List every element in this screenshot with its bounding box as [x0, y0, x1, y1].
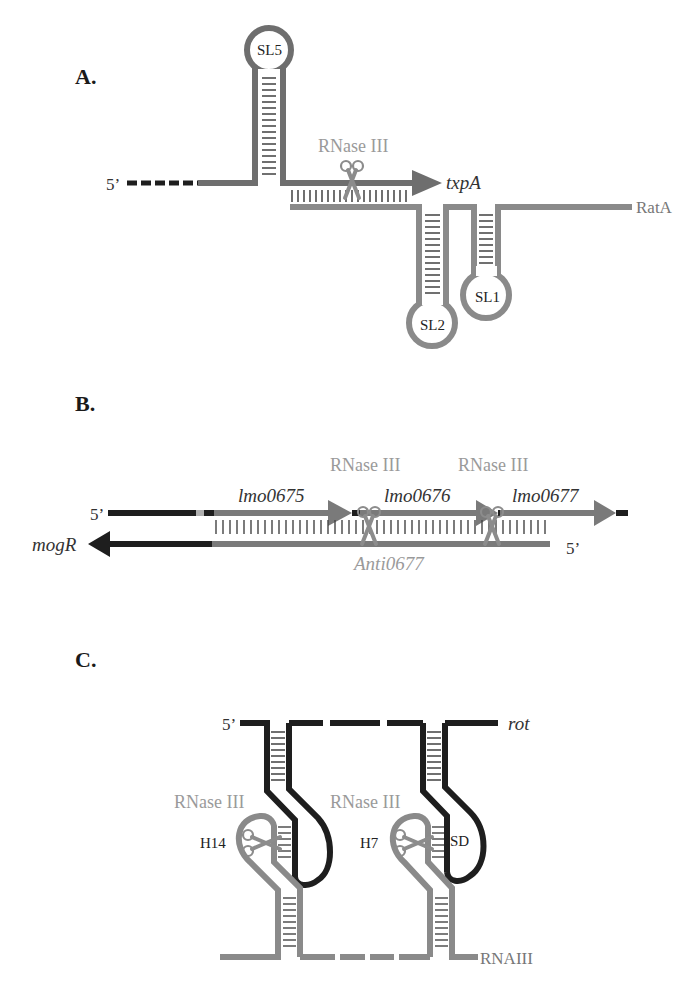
panel-b: B. 5’ lmo0675 lmo0676 lmo0677	[32, 391, 628, 574]
panel-b-rnase-label-2: RNase III	[458, 455, 528, 475]
sl1-label: SL1	[475, 289, 500, 305]
txpA-strand-left	[198, 72, 255, 183]
mogR-label: mogR	[32, 534, 77, 555]
rna-processing-diagram: A. 5’ SL5 txpA	[0, 0, 696, 982]
lmo0677-arrowhead-icon	[594, 500, 616, 526]
sd-label: SD	[450, 833, 469, 849]
sl5-label: SL5	[257, 42, 282, 58]
panel-a: A. 5’ SL5 txpA	[75, 28, 673, 346]
panel-b-label: B.	[75, 391, 95, 416]
rnaiii-label: RNAIII	[480, 949, 533, 968]
mogR-arrowhead-icon	[88, 531, 110, 557]
panel-c: C. 5’ rot	[75, 647, 533, 968]
h14-label: H14	[200, 835, 226, 851]
txpA-strand-right	[283, 72, 415, 183]
panel-b-five-prime-top: 5’	[90, 505, 104, 524]
panel-c-rnase-label-2: RNase III	[330, 792, 400, 812]
panel-a-five-prime-label: 5’	[106, 175, 120, 194]
panel-c-label: C.	[75, 647, 96, 672]
rot-stem-pairs	[271, 732, 441, 780]
ratA-strand-c	[498, 207, 632, 275]
txpA-label: txpA	[446, 172, 481, 193]
rnaiii-strand	[220, 816, 478, 957]
lmo0675-label: lmo0675	[238, 485, 305, 506]
ratA-strand-a	[290, 207, 419, 305]
panel-b-rnase-label-1: RNase III	[330, 455, 400, 475]
panel-c-five-prime-label: 5’	[222, 715, 236, 734]
rot-label: rot	[508, 713, 530, 734]
lmo0677-label: lmo0677	[512, 485, 580, 506]
sl1-stem-pairs	[479, 215, 493, 263]
sl5-stem-pairs	[262, 78, 276, 174]
sl2-stem-pairs	[425, 215, 440, 293]
sl2-label: SL2	[420, 317, 445, 333]
panel-b-five-prime-bottom: 5’	[566, 539, 580, 558]
lmo0676-label: lmo0676	[384, 485, 451, 506]
h7-label: H7	[360, 835, 379, 851]
anti0677-label: Anti0677	[352, 553, 425, 574]
panel-a-label: A.	[75, 64, 96, 89]
txpA-arrowhead-icon	[412, 170, 442, 196]
panel-a-rnase-label: RNase III	[318, 136, 388, 156]
ratA-label: RatA	[636, 198, 673, 217]
panel-c-rnase-label-1: RNase III	[174, 792, 244, 812]
